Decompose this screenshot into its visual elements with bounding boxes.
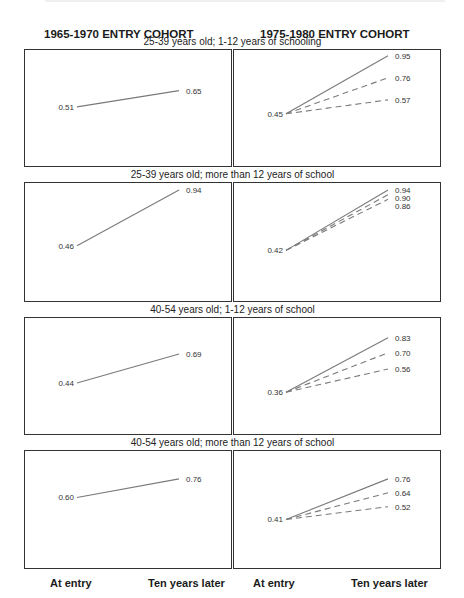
end-value-label: 0.95 [395,52,411,61]
series-line-2 [286,353,388,392]
right-panel-row-3: 0.360.830.700.56 [233,317,441,435]
end-value-label: 0.86 [395,202,411,211]
start-value-label: 0.46 [58,242,74,251]
end-value-label: 0.57 [395,96,411,105]
left-panel-row-1: 0.510.65 [24,49,232,167]
end-value-label: 0.76 [186,475,202,484]
start-value-label: 0.36 [267,388,283,397]
line-plot: 0.410.760.640.52 [234,451,442,570]
end-value-label: 0.94 [186,186,202,195]
row-title: 25-39 years old; more than 12 years of s… [24,169,441,180]
end-value-label: 0.76 [395,475,411,484]
row-title: 25-39 years old; 1-12 years of schooling [24,36,441,47]
series-line-2 [286,493,388,520]
end-value-label: 0.65 [186,87,202,96]
series-line-1 [77,479,179,498]
left-panel-row-4: 0.600.76 [24,450,232,569]
row-title: 40-54 years old; 1-12 years of school [24,304,441,315]
left-panel-row-2: 0.460.94 [24,182,232,302]
series-line-1 [286,56,388,114]
x-label-left-at-entry: At entry [50,577,92,589]
line-plot: 0.450.950.760.57 [234,50,442,168]
line-plot: 0.510.65 [25,50,233,168]
right-panel-row-2: 0.420.940.900.86 [233,182,441,302]
series-line-2 [286,78,388,114]
line-plot: 0.440.69 [25,318,233,436]
end-value-label: 0.83 [395,334,411,343]
series-line-1 [77,354,179,383]
series-line-1 [77,190,179,246]
line-plot: 0.600.76 [25,451,233,570]
line-plot: 0.360.830.700.56 [234,318,442,436]
row-title: 40-54 years old; more than 12 years of s… [24,437,441,448]
series-line-1 [286,190,388,250]
cropped-page-header [45,0,445,2]
series-line-1 [77,91,179,107]
series-line-3 [286,100,388,114]
series-line-3 [286,199,388,250]
series-line-1 [286,338,388,393]
right-panel-row-4: 0.410.760.640.52 [233,450,441,569]
end-value-label: 0.64 [395,489,411,498]
x-label-left-ten-years: Ten years later [148,577,225,589]
start-value-label: 0.42 [267,246,283,255]
start-value-label: 0.41 [267,515,283,524]
line-plot: 0.420.940.900.86 [234,183,442,303]
x-label-right-at-entry: At entry [253,577,295,589]
start-value-label: 0.44 [58,379,74,388]
series-line-2 [286,195,388,251]
end-value-label: 0.52 [395,503,411,512]
x-label-right-ten-years: Ten years later [351,577,428,589]
end-value-label: 0.56 [395,365,411,374]
end-value-label: 0.69 [186,350,202,359]
start-value-label: 0.45 [267,110,283,119]
end-value-label: 0.76 [395,74,411,83]
start-value-label: 0.60 [58,493,74,502]
end-value-label: 0.70 [395,349,411,358]
left-panel-row-3: 0.440.69 [24,317,232,435]
right-panel-row-1: 0.450.950.760.57 [233,49,441,167]
start-value-label: 0.51 [58,103,74,112]
line-plot: 0.460.94 [25,183,233,303]
